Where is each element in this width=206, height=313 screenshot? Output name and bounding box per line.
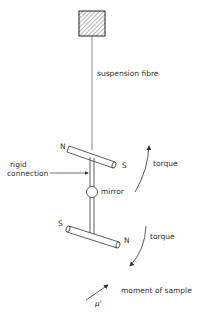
lower-s-label: S	[58, 220, 63, 228]
moment-arrow	[86, 285, 108, 300]
moment-label: moment of sample	[121, 287, 192, 295]
torque-bottom-label: torque	[150, 233, 175, 241]
support-block	[79, 11, 105, 36]
magnetometer-diagram	[0, 0, 206, 313]
torque-arrow-up	[135, 146, 149, 192]
mu-label: μ'	[95, 300, 102, 308]
fibre-label: suspension fibre	[97, 70, 158, 78]
torque-arrow-down	[130, 226, 146, 266]
rigid-label: rigid	[10, 161, 27, 169]
lower-n-label: N	[124, 237, 130, 245]
mirror-label: mirror	[101, 188, 124, 196]
torque-top-label: torque	[153, 160, 178, 168]
upper-n-label: N	[60, 143, 66, 151]
lower-magnet	[65, 225, 120, 248]
connection-label: connection	[7, 170, 48, 178]
mirror	[87, 187, 98, 198]
upper-s-label: S	[122, 162, 127, 170]
